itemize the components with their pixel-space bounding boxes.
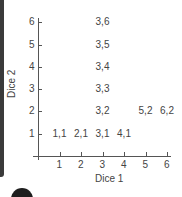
left-edge-bar bbox=[0, 0, 4, 177]
data-point-label: 3,5 bbox=[96, 40, 110, 50]
y-tick-label: 5 bbox=[29, 40, 35, 50]
data-point-label: 3,3 bbox=[96, 84, 110, 94]
data-point-label: 5,2 bbox=[139, 106, 153, 116]
data-point-label: 6,2 bbox=[160, 106, 174, 116]
x-tick bbox=[146, 152, 147, 156]
y-tick bbox=[38, 67, 42, 68]
x-tick bbox=[103, 152, 104, 156]
x-tick-label: 6 bbox=[164, 160, 170, 170]
data-point-label: 1,1 bbox=[53, 129, 67, 139]
y-tick bbox=[38, 134, 42, 135]
x-tick bbox=[124, 152, 125, 156]
data-point-label: 3,4 bbox=[96, 62, 110, 72]
x-tick-label: 5 bbox=[143, 160, 149, 170]
x-tick-label: 1 bbox=[57, 160, 63, 170]
x-tick-label: 3 bbox=[100, 160, 106, 170]
data-point-label: 3,1 bbox=[96, 129, 110, 139]
x-tick-label: 2 bbox=[78, 160, 84, 170]
x-tick-label: 4 bbox=[121, 160, 127, 170]
data-point-label: 4,1 bbox=[117, 129, 131, 139]
data-point-label: 2,1 bbox=[74, 129, 88, 139]
y-tick-label: 6 bbox=[29, 17, 35, 27]
x-tick bbox=[60, 152, 61, 156]
x-tick bbox=[167, 152, 168, 156]
y-tick bbox=[38, 45, 42, 46]
y-tick-label: 2 bbox=[29, 106, 35, 116]
y-tick bbox=[38, 89, 42, 90]
y-tick bbox=[38, 111, 42, 112]
x-axis-label: Dice 1 bbox=[95, 173, 123, 184]
y-tick-label: 4 bbox=[29, 62, 35, 72]
y-tick-label: 1 bbox=[29, 129, 35, 139]
dark-circle-decoration bbox=[11, 188, 33, 197]
y-tick bbox=[38, 22, 42, 23]
y-tick-label: 3 bbox=[29, 84, 35, 94]
data-point-label: 3,6 bbox=[96, 17, 110, 27]
y-axis-label: Dice 2 bbox=[6, 70, 17, 98]
x-axis-line bbox=[33, 156, 171, 157]
data-point-label: 3,2 bbox=[96, 106, 110, 116]
x-tick bbox=[81, 152, 82, 156]
